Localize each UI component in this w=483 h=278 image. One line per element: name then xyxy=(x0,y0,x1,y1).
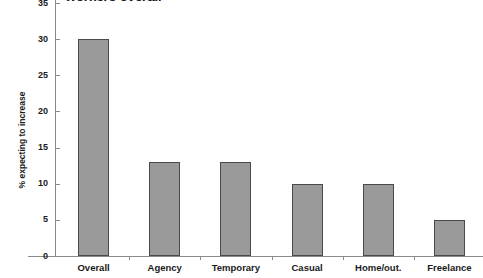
y-tick-label: 5 xyxy=(26,215,48,224)
y-tick-mark xyxy=(55,256,60,257)
bar xyxy=(292,184,323,256)
x-tick-mark xyxy=(200,256,201,260)
y-tick-label: 35 xyxy=(26,0,48,8)
x-tick-mark xyxy=(272,256,273,260)
y-tick-mark xyxy=(55,39,60,40)
y-tick-label: 0 xyxy=(26,252,48,261)
bar xyxy=(363,184,394,256)
y-tick-label: 15 xyxy=(26,143,48,152)
bar xyxy=(149,162,180,256)
bar-chart: workers overall % expecting to increase … xyxy=(0,0,483,278)
y-tick-mark xyxy=(55,3,60,4)
y-tick-mark xyxy=(55,184,60,185)
bar xyxy=(78,39,109,256)
x-tick-mark xyxy=(414,256,415,260)
y-tick-mark xyxy=(55,220,60,221)
y-tick-label: 30 xyxy=(26,35,48,44)
y-tick-mark xyxy=(55,148,60,149)
y-tick-label: 20 xyxy=(26,107,48,116)
y-tick-mark xyxy=(55,111,60,112)
chart-title: workers overall xyxy=(66,0,162,4)
bar xyxy=(434,220,465,256)
x-tick-mark xyxy=(343,256,344,260)
y-tick-label: 10 xyxy=(26,179,48,188)
y-axis-label: % expecting to increase xyxy=(17,60,27,220)
x-tick-mark xyxy=(129,256,130,260)
y-tick-label: 25 xyxy=(26,71,48,80)
bar xyxy=(220,162,251,256)
x-tick-label: Freelance xyxy=(404,262,483,273)
y-tick-mark xyxy=(55,75,60,76)
